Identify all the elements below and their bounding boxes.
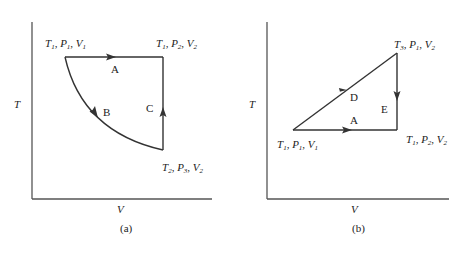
panel-b-path-D-label: D (350, 91, 358, 103)
panel-b-x-axis-label: V (351, 203, 359, 215)
panel-b-state-bottom-left: T1, P1, V1 (277, 138, 318, 152)
panel-b-path-A-label: A (350, 114, 358, 126)
panel-a-path-B-arrow-icon (90, 106, 99, 118)
panel-b-state-top-right: T3, P1, V2 (394, 38, 436, 52)
thermodynamic-path-diagrams: T V (a) A B C T1, P1, V1 T1, P2, V2 T2, … (0, 0, 473, 253)
panel-b-state-bottom-right: T1, P2, V2 (406, 133, 448, 147)
panel-a-state-bottom-right: T2, P3, V2 (162, 161, 204, 175)
panel-b-path-D (293, 53, 397, 130)
panel-a-caption: (a) (120, 222, 133, 235)
panel-a-y-axis-label: T (14, 98, 21, 110)
panel-a-state-top-right: T1, P2, V2 (156, 37, 198, 51)
panel-a: T V (a) A B C T1, P1, V1 T1, P2, V2 T2, … (14, 22, 212, 235)
panel-a-x-axis-label: V (117, 203, 125, 215)
panel-b: T V (b) D E A T1, P1, V1 T3, P1, V2 T1, … (249, 22, 449, 235)
panel-b-y-axis-label: T (249, 98, 256, 110)
panel-a-path-C-label: C (146, 102, 153, 114)
panel-a-state-top-left: T1, P1, V1 (45, 37, 86, 51)
panel-a-path-B-label: B (103, 106, 110, 118)
panel-a-path-A-label: A (111, 63, 119, 75)
panel-b-path-E-label: E (381, 103, 388, 115)
panel-b-caption: (b) (352, 222, 365, 235)
